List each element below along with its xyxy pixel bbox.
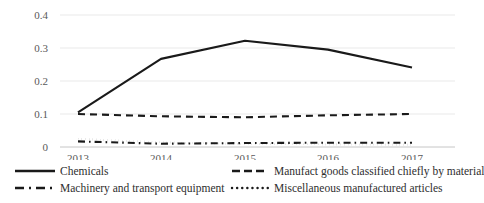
dotted-line-marker [228, 182, 270, 194]
legend-item-machinery-transport: Machinery and transport equipment [14, 182, 224, 194]
ytick-label: 0.3 [34, 42, 48, 54]
legend-label: Chemicals [60, 165, 109, 177]
xtick-label: 2013 [67, 152, 90, 160]
chart-canvas: 0.4 0.3 0.2 0.1 0 2013 2014 2015 2016 20… [0, 0, 463, 160]
data-series-group [78, 41, 412, 145]
y-axis-tick-labels: 0.4 0.3 0.2 0.1 0 [34, 9, 48, 153]
xtick-label: 2017 [401, 152, 424, 160]
legend-label: Machinery and transport equipment [60, 182, 224, 194]
xtick-label: 2016 [317, 152, 340, 160]
solid-line-marker [14, 165, 56, 177]
dashed-line-marker [228, 165, 270, 177]
ytick-label: 0.4 [34, 9, 48, 21]
chart-legend: Chemicals Machinery and transport equipm… [0, 163, 463, 203]
series-line-manufact-goods [78, 114, 412, 117]
series-line-chemicals [78, 41, 412, 113]
ytick-label: 0.1 [34, 108, 48, 120]
legend-item-miscellaneous-articles: Miscellaneous manufactured articles [228, 182, 443, 194]
legend-item-chemicals: Chemicals [14, 165, 109, 177]
plot-area: 0.4 0.3 0.2 0.1 0 2013 2014 2015 2016 20… [0, 0, 463, 160]
legend-item-manufact-goods: Manufact goods classified chiefly by mat… [228, 165, 484, 177]
x-axis-tick-labels: 2013 2014 2015 2016 2017 [67, 152, 424, 160]
gridlines [60, 15, 455, 147]
legend-label: Miscellaneous manufactured articles [274, 182, 443, 194]
dash-dot-line-marker [14, 182, 56, 194]
ytick-label: 0.2 [34, 75, 48, 87]
xtick-label: 2014 [150, 152, 173, 160]
ytick-label: 0 [43, 141, 49, 153]
series-line-machinery-transport [78, 141, 412, 143]
legend-label: Manufact goods classified chiefly by mat… [274, 165, 484, 177]
xtick-label: 2015 [234, 152, 257, 160]
